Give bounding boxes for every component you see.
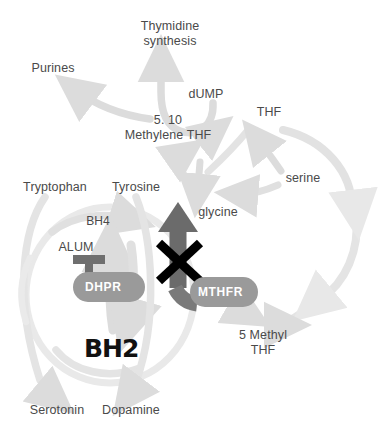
label-purines: Purines: [24, 61, 82, 76]
arrow-cycle-top-right: [283, 130, 352, 208]
label-dopamine: Dopamine: [98, 403, 164, 418]
label-thymidine-line2: synthesis: [126, 34, 214, 49]
label-mthfr: MTHFR: [198, 285, 243, 299]
label-tryptophan: Tryptophan: [20, 180, 90, 195]
label-dhpr: DHPR: [85, 280, 121, 294]
arrow-serine-to-thf: [256, 137, 281, 171]
label-thymidine-synthesis: Thymidine synthesis: [126, 19, 214, 48]
arrow-cycle-right: [320, 215, 357, 300]
arrow-methylation-dark-head: [158, 202, 198, 232]
arrow-serine-to-glycine: [236, 185, 278, 194]
label-bh4: BH4: [82, 214, 114, 229]
label-5methylthf-line2: THF: [222, 343, 304, 358]
label-methylene-line2: Methylene THF: [112, 128, 224, 143]
label-methylene-line1: 5. 10: [112, 113, 224, 128]
arrow-methylene-to-glycine: [197, 162, 200, 196]
label-tyrosine: Tyrosine: [108, 180, 164, 195]
label-5methylthf-line1: 5 Methyl: [222, 328, 304, 343]
label-methylene-thf: 5. 10 Methylene THF: [112, 113, 224, 142]
label-thymidine-line1: Thymidine: [126, 19, 214, 34]
label-alum: ALUM: [55, 240, 97, 255]
label-serine: serine: [280, 171, 326, 186]
pathway-diagram-canvas: Thymidine synthesis Purines dUMP THF 5. …: [0, 0, 381, 431]
label-bh2: BH2: [84, 334, 138, 363]
label-thf: THF: [251, 105, 287, 120]
label-5-methyl-thf: 5 Methyl THF: [222, 328, 304, 357]
label-dump: dUMP: [182, 87, 230, 102]
label-glycine: glycine: [194, 205, 242, 220]
label-serotonin: Serotonin: [26, 403, 88, 418]
